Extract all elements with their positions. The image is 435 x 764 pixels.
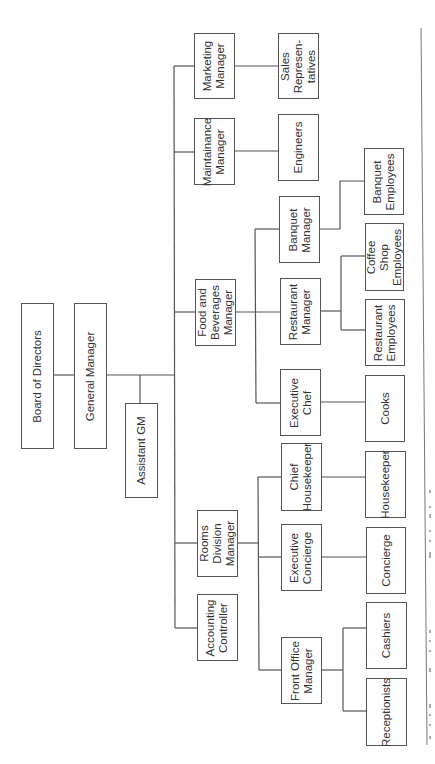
node-label: Maintainance Manager <box>202 117 228 185</box>
node-sales-representatives: Sales Represen- tatives <box>278 33 319 99</box>
node-housekeeper: Housekeeper <box>365 451 406 518</box>
node-label: Receptionists <box>380 677 393 746</box>
node-receptionists: Receptionists <box>366 678 407 746</box>
node-accounting-controller: Accounting Controller <box>197 594 238 661</box>
node-label: Rooms Division Manager <box>198 521 237 566</box>
node-label: Marketing Manager <box>202 41 228 92</box>
node-cooks: Cooks <box>365 375 405 442</box>
node-label: Banquet Employees <box>371 153 397 210</box>
node-food-beverages-manager: Food and Beverages Manager <box>195 279 236 346</box>
node-front-office-manager: Front Office Manager <box>281 637 322 704</box>
node-label: Assistant GM <box>135 416 148 484</box>
node-label: Sales Represen- tatives <box>279 39 318 93</box>
node-label: Restaurant Employees <box>372 304 398 361</box>
node-label: Concierge <box>380 534 393 586</box>
node-assistant-gm: Assistant GM <box>125 403 158 498</box>
node-label: Restaurant Manager <box>288 283 314 339</box>
node-rooms-division-manager: Rooms Division Manager <box>197 510 238 577</box>
node-label: Executive Chef <box>288 378 314 428</box>
node-executive-concierge: Executive Concierge <box>281 524 322 591</box>
node-marketing-manager: Marketing Manager <box>194 33 235 99</box>
node-label: Food and Beverages Manager <box>196 285 235 340</box>
org-chart: Board of Directors General Manager Assis… <box>0 0 435 764</box>
node-banquet-employees: Banquet Employees <box>364 148 404 215</box>
node-coffee-shop-employees: Coffee Shop Employees <box>365 223 404 291</box>
node-chief-housekeeper: Chief Housekeeper <box>281 443 322 511</box>
node-general-manager: General Manager <box>74 303 107 449</box>
node-concierge: Concierge <box>366 527 406 594</box>
node-engineers: Engineers <box>278 114 319 181</box>
node-label: Front Office Manager <box>289 641 315 701</box>
node-label: General Manager <box>84 331 97 421</box>
node-executive-chef: Executive Chef <box>280 369 321 436</box>
node-label: Engineers <box>292 122 305 174</box>
node-label: Banquet Manager <box>287 207 313 252</box>
node-label: Cashiers <box>380 613 393 658</box>
node-label: Accounting Controller <box>205 599 231 656</box>
node-label: Housekeeper <box>379 450 392 518</box>
node-label: Chief Housekeeper <box>289 443 315 511</box>
node-restaurant-manager: Restaurant Manager <box>280 278 321 345</box>
node-label: Board of Directors <box>31 330 44 423</box>
node-label: Executive Concierge <box>289 531 315 583</box>
node-label: Cooks <box>378 392 391 425</box>
node-cashiers: Cashiers <box>366 602 407 669</box>
node-board-of-directors: Board of Directors <box>21 303 54 449</box>
node-maintainance-manager: Maintainance Manager <box>194 118 235 185</box>
caption-fragment <box>427 480 435 750</box>
node-restaurant-employees: Restaurant Employees <box>365 299 405 366</box>
node-banquet-manager: Banquet Manager <box>279 196 320 263</box>
node-label: Coffee Shop Employees <box>365 229 404 286</box>
